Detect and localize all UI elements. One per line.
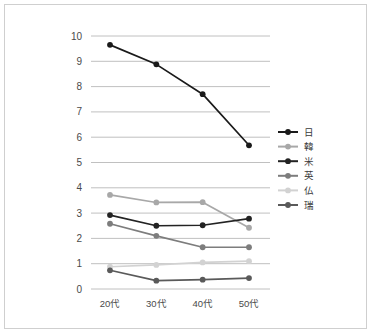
data-point-marker: [246, 225, 252, 231]
x-category-label: 50代: [239, 298, 260, 309]
y-tick-label: 8: [76, 81, 82, 92]
legend-swatch-marker: [285, 173, 291, 179]
y-tick-label: 6: [76, 132, 82, 143]
legend-item-韓[interactable]: 韓: [278, 141, 314, 152]
gridlines: [91, 36, 270, 289]
data-point-marker: [153, 223, 159, 229]
legend-swatch-marker: [285, 129, 291, 135]
series-line: [110, 45, 249, 145]
y-tick-label: 5: [76, 157, 82, 168]
y-tick-label: 0: [76, 284, 82, 295]
chart-legend: 日韓米英仏瑞: [278, 127, 314, 211]
data-point-marker: [107, 42, 113, 48]
data-point-marker: [200, 260, 206, 266]
legend-swatch-marker: [285, 202, 291, 208]
legend-label: 瑞: [304, 200, 314, 211]
chart-screenshot: 109876543210 20代30代40代50代 日韓米英仏瑞: [0, 0, 373, 335]
data-point-marker: [153, 61, 159, 67]
legend-swatch-marker: [285, 144, 291, 150]
legend-swatch-marker: [285, 158, 291, 164]
data-point-marker: [200, 91, 206, 97]
data-point-marker: [153, 200, 159, 206]
y-tick-label: 2: [76, 233, 82, 244]
data-point-marker: [246, 258, 252, 264]
series-瑞: [107, 267, 252, 283]
legend-item-日[interactable]: 日: [278, 127, 314, 138]
y-tick-label: 3: [76, 208, 82, 219]
y-tick-label: 7: [76, 106, 82, 117]
data-point-marker: [107, 267, 113, 273]
data-point-marker: [246, 142, 252, 148]
series-日: [107, 42, 252, 148]
data-point-marker: [153, 233, 159, 239]
legend-label: 韓: [304, 141, 314, 152]
data-point-marker: [200, 277, 206, 283]
legend-item-米[interactable]: 米: [278, 156, 314, 167]
y-tick-label: 1: [76, 258, 82, 269]
x-category-label: 40代: [192, 298, 213, 309]
data-point-marker: [246, 244, 252, 250]
legend-item-英[interactable]: 英: [278, 170, 314, 181]
legend-label: 日: [304, 127, 314, 138]
series-line: [110, 195, 249, 228]
y-tick-label: 9: [76, 56, 82, 67]
legend-label: 米: [304, 156, 314, 167]
data-point-marker: [153, 278, 159, 284]
y-tick-label: 4: [76, 182, 82, 193]
data-point-marker: [200, 222, 206, 228]
chart-canvas: 109876543210 20代30代40代50代 日韓米英仏瑞: [0, 0, 373, 335]
y-axis-tick-labels: 109876543210: [71, 31, 83, 295]
series-line: [110, 270, 249, 280]
x-category-label: 20代: [100, 298, 121, 309]
series-米: [107, 212, 252, 228]
line-chart: 109876543210 20代30代40代50代 日韓米英仏瑞: [0, 0, 373, 335]
series-line: [110, 224, 249, 248]
data-point-marker: [107, 221, 113, 227]
data-point-marker: [200, 199, 206, 205]
data-point-marker: [107, 212, 113, 218]
data-point-marker: [246, 216, 252, 222]
legend-label: 英: [304, 170, 314, 181]
legend-item-瑞[interactable]: 瑞: [278, 200, 314, 211]
x-axis-category-labels: 20代30代40代50代: [100, 298, 260, 309]
x-category-label: 30代: [146, 298, 167, 309]
legend-swatch-marker: [285, 188, 291, 194]
data-point-marker: [246, 275, 252, 281]
y-tick-label: 10: [71, 31, 83, 42]
data-point-marker: [107, 192, 113, 198]
data-point-marker: [153, 262, 159, 268]
legend-item-仏[interactable]: 仏: [278, 185, 314, 196]
data-point-marker: [200, 244, 206, 250]
legend-label: 仏: [304, 185, 314, 196]
